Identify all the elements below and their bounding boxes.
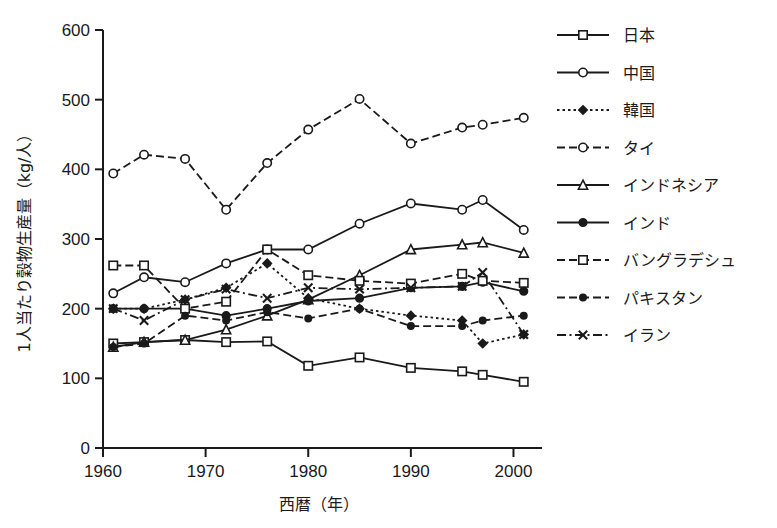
marker-open-circle — [181, 278, 189, 286]
legend-item-label: バングラデシュ — [623, 251, 736, 270]
grain-production-line-chart: 010020030040050060019601970198019902000西… — [0, 0, 777, 528]
legend-item[interactable]: 韓国 — [557, 101, 655, 120]
axes: 010020030040050060019601970198019902000 — [62, 21, 542, 481]
y-axis-tick-label: 600 — [62, 21, 90, 40]
legend-item[interactable]: イラン — [557, 326, 671, 345]
series-group — [109, 95, 529, 386]
marker-open-circle — [222, 259, 230, 267]
marker-open-circle — [355, 95, 363, 103]
series-line — [113, 243, 523, 348]
marker-open-square — [304, 271, 312, 279]
data-series — [109, 245, 528, 313]
marker-filled-circle-small — [305, 315, 311, 321]
x-axis-tick-label: 1960 — [84, 462, 122, 481]
marker-open-circle — [458, 206, 466, 214]
legend-item-label: インドネシア — [623, 176, 719, 195]
marker-open-circle — [579, 68, 587, 76]
legend-item[interactable]: インドネシア — [557, 176, 719, 195]
marker-open-square — [222, 338, 230, 346]
marker-filled-circle-small — [459, 323, 465, 329]
marker-open-circle — [520, 114, 528, 122]
y-axis-tick-label: 0 — [81, 439, 90, 458]
y-axis-tick-label: 400 — [62, 160, 90, 179]
marker-open-circle — [109, 169, 117, 177]
marker-filled-circle-small — [223, 317, 229, 323]
y-axis-tick-label: 200 — [62, 300, 90, 319]
marker-open-circle — [355, 219, 363, 227]
x-axis-tick-label: 2000 — [495, 462, 533, 481]
marker-open-circle — [263, 159, 271, 167]
legend-item-label: 中国 — [623, 64, 655, 83]
marker-filled-circle-small — [356, 305, 362, 311]
legend-item-label: パキスタン — [623, 289, 703, 308]
legend-item-label: 韓国 — [623, 101, 655, 120]
marker-filled-circle — [304, 297, 312, 305]
marker-filled-circle-small — [264, 309, 270, 315]
series-line — [113, 99, 523, 210]
marker-filled-circle-small — [580, 294, 586, 300]
marker-open-square — [407, 364, 415, 372]
marker-open-circle — [478, 121, 486, 129]
marker-open-circle — [109, 289, 117, 297]
chart-canvas: 010020030040050060019601970198019902000西… — [0, 0, 777, 528]
marker-filled-diamond — [478, 339, 486, 347]
marker-filled-circle-small — [479, 317, 485, 323]
marker-filled-circle — [356, 294, 364, 302]
legend-item-label: 日本 — [623, 26, 655, 45]
data-series — [109, 238, 529, 351]
y-axis-title: 1人当たり穀物生産量（kg/人） — [15, 126, 34, 353]
legend-item[interactable]: バングラデシュ — [557, 251, 736, 270]
marker-open-square — [355, 353, 363, 361]
marker-open-square — [181, 304, 189, 312]
marker-filled-diamond — [407, 311, 415, 319]
marker-open-circle — [407, 139, 415, 147]
marker-open-square — [478, 371, 486, 379]
marker-open-circle — [579, 143, 587, 151]
marker-open-circle — [407, 199, 415, 207]
marker-filled-circle-small — [408, 323, 414, 329]
marker-open-square — [520, 279, 528, 287]
marker-filled-circle — [140, 305, 148, 313]
marker-filled-circle-small — [141, 340, 147, 346]
marker-open-circle — [520, 226, 528, 234]
marker-open-square — [263, 245, 271, 253]
marker-open-circle — [181, 155, 189, 163]
x-axis-tick-label: 1980 — [289, 462, 327, 481]
marker-open-square — [520, 378, 528, 386]
marker-open-square — [304, 362, 312, 370]
legend-item[interactable]: パキスタン — [557, 289, 703, 308]
marker-open-square — [355, 277, 363, 285]
marker-open-circle — [478, 196, 486, 204]
marker-open-square — [579, 256, 587, 264]
legend-item[interactable]: インド — [557, 214, 671, 233]
data-series — [109, 336, 528, 386]
marker-open-square — [109, 261, 117, 269]
x-axis-title: 西暦（年） — [279, 495, 359, 514]
marker-filled-circle-small — [521, 312, 527, 318]
marker-open-circle — [458, 123, 466, 131]
marker-open-circle — [304, 245, 312, 253]
legend-item[interactable]: 日本 — [557, 26, 655, 45]
marker-open-square — [263, 337, 271, 345]
marker-filled-circle — [520, 287, 528, 295]
y-axis-tick-label: 100 — [62, 369, 90, 388]
marker-open-square — [140, 261, 148, 269]
marker-open-circle — [304, 125, 312, 133]
marker-open-square — [222, 298, 230, 306]
marker-open-square — [579, 31, 587, 39]
legend-item[interactable]: タイ — [557, 139, 655, 158]
marker-open-square — [458, 367, 466, 375]
legend-item-label: イラン — [623, 326, 671, 345]
legend-item-label: インド — [623, 214, 671, 233]
legend-item[interactable]: 中国 — [557, 64, 655, 83]
marker-open-circle — [140, 151, 148, 159]
data-series — [109, 95, 528, 214]
legend-item-label: タイ — [623, 139, 655, 158]
x-axis-tick-label: 1970 — [187, 462, 225, 481]
marker-filled-diamond — [579, 106, 587, 114]
x-axis-tick-label: 1990 — [392, 462, 430, 481]
marker-filled-circle-small — [110, 344, 116, 350]
marker-filled-circle-small — [182, 312, 188, 318]
data-series — [110, 305, 527, 350]
legend: 日本中国韓国タイインドネシアインドバングラデシュパキスタンイラン — [557, 26, 736, 345]
